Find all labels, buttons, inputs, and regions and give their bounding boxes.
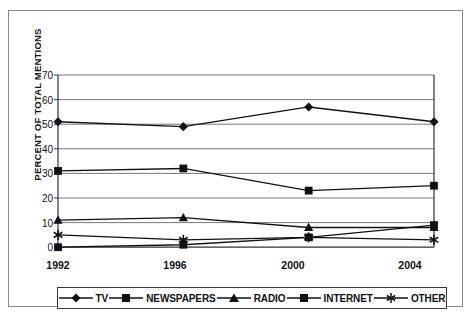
legend-marker-star-icon bbox=[374, 292, 408, 304]
chart-legend: TV NEWSPAPERS RADIO bbox=[57, 287, 447, 309]
data-point bbox=[305, 187, 313, 195]
legend-label-newspapers: NEWSPAPERS bbox=[146, 293, 215, 304]
data-point bbox=[304, 102, 313, 111]
data-point bbox=[179, 165, 187, 173]
series-newspapers bbox=[54, 165, 438, 195]
chart-figure: PERCENT OF TOTAL MENTIONS 70 60 50 40 30… bbox=[0, 0, 474, 319]
legend-marker-triangle-icon bbox=[217, 292, 251, 304]
legend-item-internet[interactable]: INTERNET bbox=[287, 292, 373, 304]
data-point bbox=[429, 117, 438, 126]
plot-area bbox=[9, 11, 464, 286]
legend-item-radio[interactable]: RADIO bbox=[217, 292, 286, 304]
series-other bbox=[54, 230, 439, 245]
data-point bbox=[54, 243, 62, 251]
legend-item-tv[interactable]: TV bbox=[59, 292, 109, 304]
data-point bbox=[179, 213, 188, 221]
legend-marker-square-icon bbox=[109, 292, 143, 304]
gridlines bbox=[58, 75, 434, 223]
data-series-layer bbox=[53, 102, 438, 251]
data-point bbox=[53, 117, 62, 126]
legend-marker-diamond-icon bbox=[59, 292, 93, 304]
data-point bbox=[430, 221, 438, 229]
chart-border: PERCENT OF TOTAL MENTIONS 70 60 50 40 30… bbox=[8, 10, 463, 307]
legend-label-tv: TV bbox=[96, 293, 109, 304]
data-point bbox=[179, 122, 188, 131]
data-point bbox=[54, 167, 62, 175]
data-point bbox=[430, 182, 438, 190]
legend-marker-square-icon bbox=[287, 292, 321, 304]
series-radio bbox=[53, 213, 438, 231]
legend-label-other: OTHER bbox=[411, 293, 446, 304]
legend-item-newspapers[interactable]: NEWSPAPERS bbox=[109, 292, 215, 304]
legend-item-other[interactable]: OTHER bbox=[374, 292, 446, 304]
axis-lines bbox=[54, 75, 434, 247]
series-tv bbox=[53, 102, 438, 131]
legend-label-internet: INTERNET bbox=[324, 293, 373, 304]
legend-label-radio: RADIO bbox=[254, 293, 286, 304]
